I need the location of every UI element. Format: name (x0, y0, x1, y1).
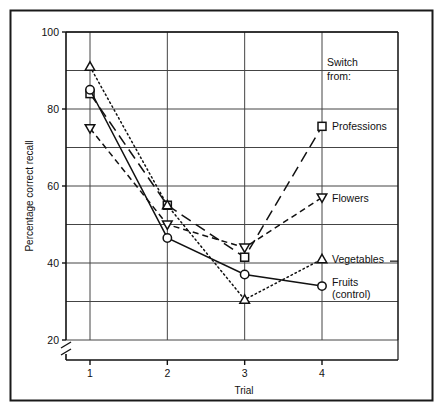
legend-label-vegetables: Vegetables (332, 253, 384, 265)
x-tick-label: 3 (242, 367, 248, 379)
x-axis-title: Trial (234, 385, 253, 396)
data-point-marker (240, 270, 248, 278)
y-tick-label: 100 (41, 26, 59, 38)
data-point-marker (86, 86, 94, 94)
switch-annotation-line2: from: (327, 70, 351, 82)
line-chart: 204060801001234 ProfessionsFlowersVegeta… (0, 0, 447, 411)
legend-label-professions: Professions (332, 120, 387, 132)
x-tick-label: 2 (164, 367, 170, 379)
data-point-marker (318, 282, 326, 290)
data-point-marker (163, 234, 171, 242)
y-tick-label: 40 (47, 257, 59, 269)
y-tick-label: 80 (47, 103, 59, 115)
data-point-marker (318, 122, 326, 130)
legend-label-flowers: Flowers (332, 192, 369, 204)
switch-annotation-line1: Switch (327, 56, 358, 68)
data-point-marker (241, 253, 249, 261)
x-tick-label: 4 (319, 367, 325, 379)
chart-figure: 204060801001234 ProfessionsFlowersVegeta… (0, 0, 447, 411)
y-tick-label: 60 (47, 180, 59, 192)
y-axis-title: Percentage correct recall (24, 140, 35, 251)
legend-label-fruits: Fruits (332, 276, 358, 288)
x-tick-label: 1 (87, 367, 93, 379)
y-tick-label: 20 (47, 334, 59, 346)
legend-label-fruits-control: (control) (332, 288, 371, 300)
figure-border (11, 11, 433, 401)
